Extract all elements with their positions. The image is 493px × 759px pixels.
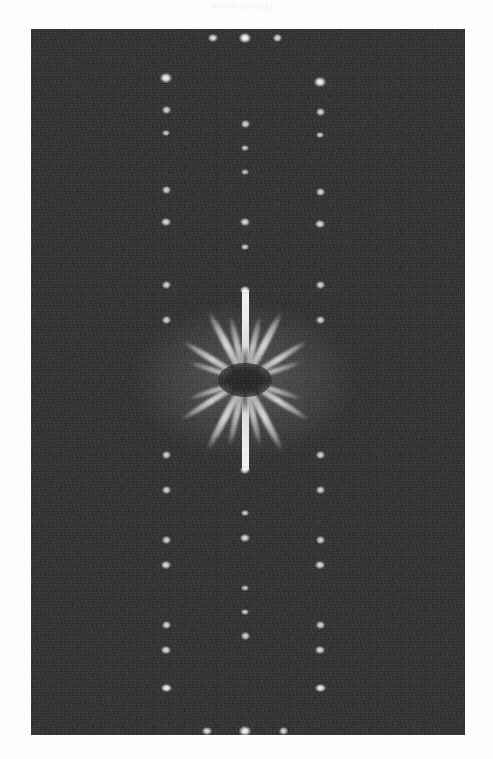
radial-streak [243,338,309,382]
radial-streak [242,378,285,452]
bragg-reflection [161,561,171,569]
radial-streak [243,377,311,422]
bragg-reflection [162,486,171,493]
bragg-reflection [241,120,250,127]
film-grain-speckle [31,29,465,735]
radial-streak [181,338,247,382]
bragg-reflection [239,33,252,43]
radial-streak [205,378,248,452]
bragg-reflection [315,220,325,228]
bragg-reflection [315,561,325,569]
bragg-reflection [316,621,325,628]
bragg-reflection [202,727,212,735]
bragg-reflection [162,316,171,323]
bragg-reflection [241,609,250,616]
bragg-reflection [162,281,171,288]
bragg-reflection [241,145,250,152]
bragg-reflection [316,108,325,115]
bragg-reflection [240,534,250,542]
bragg-reflection [162,106,171,113]
bragg-reflection [241,585,249,591]
bragg-reflection [273,34,282,41]
beamstop [218,363,272,397]
radial-streak [227,379,248,446]
bragg-reflection [316,536,325,543]
bragg-reflection [279,727,288,734]
bragg-reflection [316,451,325,458]
film-grain-texture [31,29,465,735]
bragg-reflection [241,169,249,175]
bragg-reflection [162,130,171,137]
detector-panel [31,29,465,735]
bragg-reflection [316,188,325,195]
radial-streak [242,310,284,382]
bragg-reflection [162,536,171,543]
radial-streak [244,359,303,382]
bragg-reflection [240,218,250,226]
bragg-reflection [316,132,325,139]
bragg-reflection [239,726,251,735]
bragg-reflection [315,684,326,693]
bragg-reflection [208,34,218,42]
bragg-reflection [315,646,325,654]
bragg-reflection [316,316,325,323]
bragg-reflection [241,244,250,251]
diffraction-figure: bleed-through [0,0,493,759]
radial-streak [179,377,247,422]
bragg-reflection [240,466,250,474]
radial-streak [227,315,247,381]
bragg-reflection [161,646,171,654]
bragg-reflection [162,186,171,193]
bragg-reflection [162,621,171,628]
bleed-through-artifact: bleed-through [196,1,292,12]
direct-beam-halo [135,302,355,458]
radial-streak [187,359,246,382]
radial-streak [187,378,246,401]
bragg-reflection [241,510,250,517]
radial-streak [206,310,248,382]
direct-beam-streak [242,290,249,362]
direct-beam-streak [242,398,249,470]
bragg-reflection [161,684,172,693]
radial-streak [242,379,263,446]
bragg-reflection [160,73,172,82]
bragg-reflection [161,218,171,226]
bragg-reflection [162,451,171,458]
bragg-reflection [240,286,250,294]
bragg-reflection [241,632,250,639]
radial-streak [244,378,303,401]
radial-streak [242,315,262,381]
bragg-reflection [316,486,325,493]
bragg-reflection [314,77,326,86]
bragg-reflection [316,281,325,288]
